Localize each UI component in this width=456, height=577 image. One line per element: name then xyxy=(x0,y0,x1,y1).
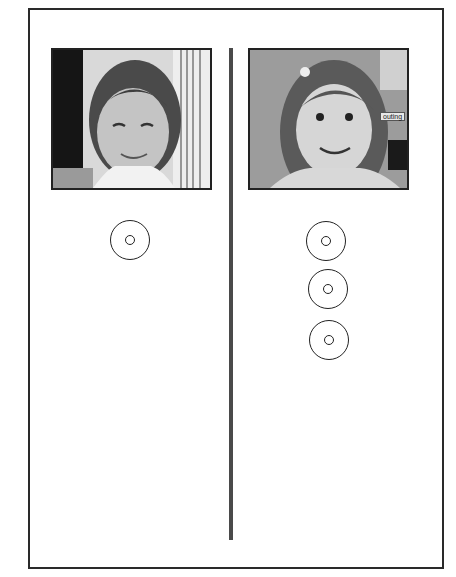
photo-sign-text: outing xyxy=(380,112,405,121)
target-circle-left-1 xyxy=(110,220,150,260)
panel-divider xyxy=(229,48,233,540)
left-face-photo xyxy=(51,48,212,190)
target-circle-right-3 xyxy=(309,320,349,360)
target-circle-right-2 xyxy=(308,269,348,309)
target-circle-right-1 xyxy=(306,221,346,261)
